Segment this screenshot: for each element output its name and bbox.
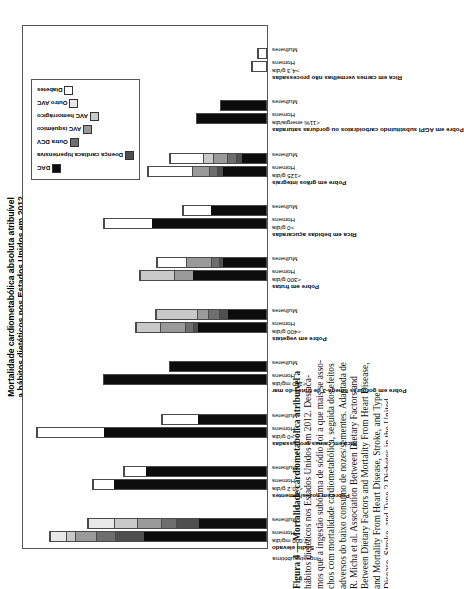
bar-segment-diabetes <box>258 49 266 58</box>
bar-segment-avc-hemorr-gico <box>156 310 197 319</box>
bar-segment-avc-hemorr-gico <box>203 154 212 163</box>
bar-segment-outra-dcv <box>209 167 217 176</box>
bar-segment-dac <box>199 519 266 528</box>
bar-pobre-em-gorduras-mega-3-de-frutos-do-mar-homens <box>103 374 267 385</box>
bar-segment-diabetes <box>183 206 211 215</box>
bar-segment-dac <box>198 415 266 424</box>
legend-item: Diabetes <box>37 86 134 95</box>
bar-segment-doen-a-card-aca-hipertensiva <box>115 532 144 541</box>
bar-segment-dac <box>193 271 266 280</box>
legend-label: Diabetes <box>37 87 62 94</box>
y-axis-title-line1: Mortalidade cardiometabólica absoluta at… <box>6 27 16 567</box>
bar-segment-avc-hemorr-gico <box>140 271 175 280</box>
bar-segment-avc-isqu-mico <box>174 271 193 280</box>
bar-pobre-em-vegetais-homens <box>135 322 267 333</box>
bar-segment-avc-isqu-mico <box>213 154 227 163</box>
bar-segment-outro-avc <box>50 532 66 541</box>
legend-item: AVC isquêmico <box>37 125 134 134</box>
legend-item: Outro AVC <box>37 99 134 108</box>
legend-label: AVC hemorrágico <box>37 113 88 120</box>
caption-line: chos com mortalidade cardiometabólica, s… <box>326 14 337 589</box>
bar-segment-dac <box>211 206 266 215</box>
legend-swatch <box>69 99 78 108</box>
legend-item: AVC hemorrágico <box>37 112 134 121</box>
bar-segment-avc-isqu-mico <box>160 323 185 332</box>
legend-item: Doença cardíaca hipertensiva <box>37 151 134 160</box>
bar-segment-diabetes <box>124 467 146 476</box>
bar-rica-em-carnes-processadas-homens <box>36 427 267 438</box>
bar-pobre-em-gr-os-integrais-mulheres <box>169 153 267 164</box>
legend-item: DAC <box>37 164 134 173</box>
bar-segment-dac <box>114 480 266 489</box>
legend-item: Outra DCV <box>37 138 134 147</box>
caption-line: adversos do baixo consumo de nozes/semen… <box>338 14 349 589</box>
bar-segment-diabetes <box>104 219 152 228</box>
bar-segment-avc-hemorr-gico <box>136 323 160 332</box>
legend-label: DAC <box>37 165 50 172</box>
x-cutoff-label: >0 g/dia <box>272 225 294 232</box>
bar-segment-outra-dcv <box>208 310 219 319</box>
caption-line: Disease, Stroke, and Type 2 Diabetes in … <box>383 14 388 589</box>
legend-swatch <box>90 112 99 121</box>
legend-swatch <box>64 86 73 95</box>
bar-pobre-em-agpi-substituindo-carboidratos-ou-gorduras-saturadas-homens <box>196 113 267 124</box>
bar-pobre-em-agpi-substituindo-carboidratos-ou-gorduras-saturadas-mulheres <box>220 100 267 111</box>
bar-segment-outra-dcv <box>161 519 175 528</box>
bar-pobre-em-nozes-sementes-homens <box>92 479 267 490</box>
bar-segment-avc-isqu-mico <box>197 310 208 319</box>
bar-segment-dac <box>197 114 266 123</box>
bar-segment-diabetes <box>93 480 114 489</box>
bar-segment-doen-a-card-aca-hipertensiva <box>176 519 200 528</box>
bar-segment-dac <box>152 219 266 228</box>
caption-line: and Mortality From Heart Disease, Stroke… <box>372 14 383 589</box>
legend-label: Outro AVC <box>37 100 67 107</box>
legend-swatch <box>83 125 92 134</box>
bar-segment-dac <box>170 362 266 371</box>
bar-segment-diabetes <box>37 428 104 437</box>
legend-label: Outra DCV <box>37 139 68 146</box>
figure-caption: Figura 4 — Mortalidade cardiometabólica … <box>292 14 388 589</box>
bar-pobre-em-frutas-homens <box>139 270 267 281</box>
bar-segment-dac <box>221 101 266 110</box>
bar-segment-avc-isqu-mico <box>137 519 161 528</box>
bar-pobre-em-gr-os-integrais-homens <box>147 166 267 177</box>
bar-s-dio-elevado-mulheres <box>87 518 267 529</box>
plot-frame: DACDoença cardíaca hipertensivaOutra DCV… <box>22 25 268 549</box>
bar-segment-outra-dcv <box>211 258 219 267</box>
bar-segment-avc-isqu-mico <box>186 258 211 267</box>
bar-segment-diabetes <box>252 62 266 71</box>
bar-rica-em-bebidas-a-ucaradas-mulheres <box>182 205 267 216</box>
bar-segment-avc-hemorr-gico <box>66 532 76 541</box>
chart-legend: DACDoença cardíaca hipertensivaOutra DCV… <box>31 79 140 180</box>
bar-segment-dac <box>228 310 266 319</box>
legend-label: Doença cardíaca hipertensiva <box>37 152 123 159</box>
legend-swatch <box>125 151 134 160</box>
bar-pobre-em-vegetais-mulheres <box>155 309 267 320</box>
bar-segment-dac <box>242 154 266 163</box>
bar-rica-em-carnes-vermelhas-n-o-processadas-homens <box>251 61 267 72</box>
caption-line: hábitos dietéticos nos Estados Unidos em… <box>303 14 314 589</box>
legend-swatch <box>70 138 79 147</box>
bar-segment-avc-isqu-mico <box>192 167 209 176</box>
bar-segment-dac <box>146 467 266 476</box>
bar-segment-outra-dcv <box>185 323 193 332</box>
bar-segment-avc-hemorr-gico <box>114 519 138 528</box>
bar-segment-diabetes <box>162 415 198 424</box>
bar-s-dio-elevado-homens <box>49 531 267 542</box>
bar-segment-diabetes <box>148 167 192 176</box>
bar-rica-em-carnes-processadas-mulheres <box>161 414 267 425</box>
legend-label: AVC isquêmico <box>37 126 81 133</box>
bar-segment-doen-a-card-aca-hipertensiva <box>219 310 228 319</box>
bar-segment-dac <box>104 375 266 384</box>
bar-rica-em-carnes-vermelhas-n-o-processadas-mulheres <box>257 48 267 59</box>
bar-pobre-em-gorduras-mega-3-de-frutos-do-mar-mulheres <box>169 361 267 372</box>
bar-segment-diabetes <box>157 258 185 267</box>
bar-segment-dac <box>223 258 266 267</box>
bar-segment-diabetes <box>170 154 203 163</box>
legend-swatch <box>52 164 61 173</box>
bar-segment-outra-dcv <box>96 532 115 541</box>
bar-segment-dac <box>104 428 266 437</box>
bar-segment-dac <box>198 323 266 332</box>
